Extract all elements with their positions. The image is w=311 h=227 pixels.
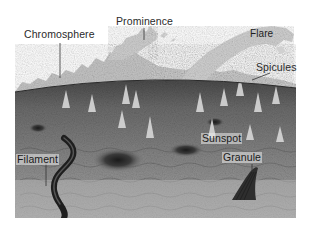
label-chromosphere: Chromosphere [24, 29, 95, 40]
label-sunspot: Sunspot [201, 133, 242, 144]
solar-surface-diagram: Chromosphere Prominence Flare Spicules S… [0, 0, 311, 227]
label-flare: Flare [250, 29, 273, 39]
sunspot-right [168, 143, 204, 157]
sunspot-large [92, 148, 144, 172]
label-spicules: Spicules [256, 62, 297, 73]
photosphere [15, 70, 300, 220]
label-granule: Granule [222, 152, 262, 163]
label-prominence: Prominence [116, 16, 173, 27]
label-filament: Filament [16, 154, 59, 165]
